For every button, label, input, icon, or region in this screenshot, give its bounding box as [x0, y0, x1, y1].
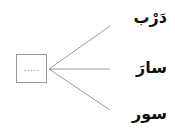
word-middle: سارَ: [136, 58, 167, 77]
word-top: دَرْب: [134, 8, 168, 27]
word-bottom: سور: [132, 104, 167, 123]
connector-line-bottom: [49, 69, 110, 110]
connector-line-top: [49, 26, 110, 69]
